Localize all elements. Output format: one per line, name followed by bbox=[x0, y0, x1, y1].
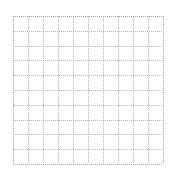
grid-line-vertical-3 bbox=[58, 16, 59, 164]
screenshot-canvas bbox=[0, 0, 172, 173]
grid-line-vertical-1 bbox=[28, 16, 29, 164]
grid-line-vertical-8 bbox=[133, 16, 134, 164]
grid-line-vertical-0 bbox=[13, 16, 14, 164]
grid-plot-area bbox=[13, 16, 163, 164]
grid-line-vertical-6 bbox=[103, 16, 104, 164]
grid-line-vertical-2 bbox=[43, 16, 44, 164]
grid-line-vertical-9 bbox=[148, 16, 149, 164]
grid-line-horizontal-10 bbox=[13, 164, 163, 165]
grid-line-vertical-10 bbox=[163, 16, 164, 164]
grid-line-vertical-5 bbox=[88, 16, 89, 164]
grid-line-vertical-4 bbox=[73, 16, 74, 164]
grid-line-vertical-7 bbox=[118, 16, 119, 164]
